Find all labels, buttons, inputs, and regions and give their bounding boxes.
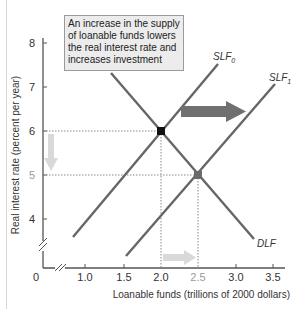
x-axis-break — [55, 263, 66, 273]
y-tick-8: 8 — [29, 37, 35, 49]
callout-line-1: An increase in the supply — [68, 18, 180, 30]
callout-line-2: of loanable funds lowers — [68, 30, 180, 42]
dlf-curve — [111, 73, 254, 239]
origin-label: 0 — [33, 271, 39, 283]
quantity-rise-arrow — [163, 250, 196, 265]
callout-box: An increase in the supply of loanable fu… — [64, 15, 184, 71]
slf0-curve — [73, 64, 218, 237]
y-tick-7: 7 — [29, 81, 35, 93]
y-tick-4: 4 — [29, 213, 35, 225]
new-equilibrium-point — [194, 171, 202, 179]
x-tick-2-0: 2.0 — [153, 271, 168, 283]
slf0-label: SLF0 — [213, 51, 235, 64]
x-tick-3-0: 3.0 — [228, 271, 243, 283]
y-tick-5: 5 — [29, 169, 35, 181]
x-tick-3-5: 3.5 — [265, 271, 280, 283]
x-tick-1-5: 1.5 — [116, 271, 131, 283]
x-axis-title: Loanable funds (trillions of 2000 dollar… — [113, 289, 290, 300]
initial-equilibrium-point — [157, 127, 165, 135]
slf1-label: SLF1 — [269, 72, 291, 85]
callout-line-3: the real interest rate and — [68, 42, 180, 54]
x-tick-2-5: 2.5 — [190, 271, 205, 283]
supply-shift-arrow — [181, 101, 246, 122]
y-axis-title: Real interest rate (percent per year) — [10, 76, 21, 234]
y-tick-6: 6 — [29, 125, 35, 137]
dlf-label: DLF — [257, 238, 277, 249]
callout-line-4: increases investment — [68, 54, 180, 66]
x-tick-1-0: 1.0 — [77, 271, 92, 283]
rate-fall-arrow — [44, 134, 58, 171]
